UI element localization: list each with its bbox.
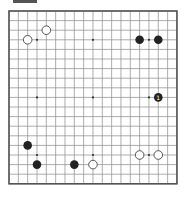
star-point xyxy=(148,96,150,98)
white-stone[interactable] xyxy=(135,151,144,160)
star-point xyxy=(36,39,38,41)
white-stone[interactable] xyxy=(89,160,98,169)
black-stone[interactable] xyxy=(33,160,42,169)
white-stone[interactable] xyxy=(42,26,51,35)
stone-label: 1 xyxy=(156,94,160,101)
black-stone[interactable] xyxy=(70,160,79,169)
white-stone[interactable] xyxy=(154,151,163,160)
white-stone[interactable] xyxy=(23,36,32,45)
star-point xyxy=(36,154,38,156)
black-stone[interactable] xyxy=(154,36,163,45)
black-stone[interactable] xyxy=(23,141,32,150)
star-point xyxy=(148,39,150,41)
star-point xyxy=(36,96,38,98)
star-point xyxy=(148,154,150,156)
star-point xyxy=(92,39,94,41)
black-stone[interactable] xyxy=(135,36,144,45)
go-diagram: 1 xyxy=(0,0,186,197)
star-point xyxy=(92,154,94,156)
star-point xyxy=(92,96,94,98)
go-board[interactable]: 1 xyxy=(0,0,186,197)
